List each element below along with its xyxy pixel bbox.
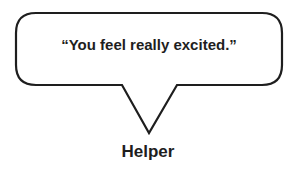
speech-bubble-outline <box>16 13 282 133</box>
speaker-label: Helper <box>0 142 296 162</box>
bubble-quote-text: “You feel really excited.” <box>15 36 283 54</box>
